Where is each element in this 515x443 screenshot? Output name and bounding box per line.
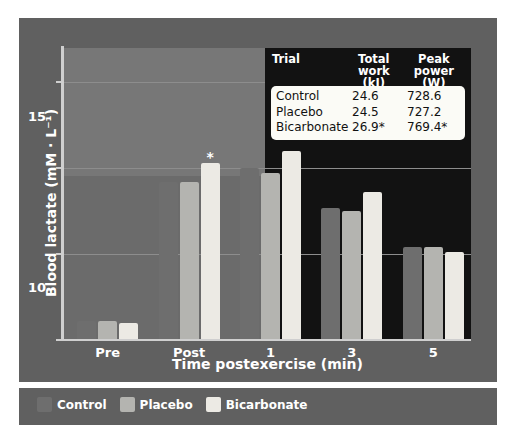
plot-background-light xyxy=(64,48,265,176)
x-axis-line xyxy=(64,339,471,341)
x-axis-title: Time postexercise (min) xyxy=(64,356,471,372)
bar-bicarbonate-3 xyxy=(363,192,382,340)
legend-swatch-icon xyxy=(37,397,52,412)
gridline xyxy=(64,168,471,169)
cell-total-work: 24.6 xyxy=(352,89,407,105)
cell-peak-power: 769.4* xyxy=(407,120,462,136)
bar-control-5 xyxy=(403,247,422,340)
legend-items: ControlPlaceboBicarbonate xyxy=(37,397,307,412)
legend-label: Placebo xyxy=(140,398,193,412)
cell-peak-power: 728.6 xyxy=(407,89,462,105)
cell-total-work: 26.9* xyxy=(352,120,407,136)
legend-label: Bicarbonate xyxy=(226,398,308,412)
legend-item-placebo[interactable]: Placebo xyxy=(120,397,193,412)
cell-peak-power: 727.2 xyxy=(407,105,462,121)
inset-header-trial: Trial xyxy=(272,53,344,89)
inset-header-peak-power: Peak power (W) xyxy=(404,53,464,89)
bar-placebo-5 xyxy=(424,247,443,340)
inset-header-total-work-label: Total work xyxy=(358,52,390,78)
bar-control-pre xyxy=(77,321,96,340)
legend-panel: ControlPlaceboBicarbonate xyxy=(19,388,497,425)
legend-label: Control xyxy=(57,398,107,412)
table-row: Bicarbonate26.9*769.4* xyxy=(271,120,465,136)
bar-bicarbonate-pre xyxy=(119,323,138,340)
chart-panel: Blood lactate (mM · L⁻¹) 051015 ** PrePo… xyxy=(19,18,497,382)
inset-header-trial-label: Trial xyxy=(272,52,300,66)
bar-control-3 xyxy=(321,208,340,340)
bar-bicarbonate-5 xyxy=(445,252,464,340)
y-axis-line xyxy=(61,46,64,341)
y-tick-label: 15 xyxy=(28,108,46,123)
bar-placebo-1 xyxy=(261,173,280,340)
cell-trial: Bicarbonate xyxy=(276,120,352,136)
inset-summary-table: Trial Total work (kJ) Peak power (W) Con… xyxy=(265,48,471,150)
bar-placebo-3 xyxy=(342,211,361,340)
cell-trial: Placebo xyxy=(276,105,352,121)
table-row: Control24.6728.6 xyxy=(271,89,465,105)
bar-placebo-pre xyxy=(98,321,117,340)
legend-swatch-icon xyxy=(206,397,221,412)
bar-control-1 xyxy=(240,168,259,340)
inset-table-body: Control24.6728.6Placebo24.5727.2Bicarbon… xyxy=(271,86,465,140)
table-row: Placebo24.5727.2 xyxy=(271,105,465,121)
y-axis-title: Blood lactate (mM · L⁻¹) xyxy=(43,98,59,308)
figure-root: Blood lactate (mM · L⁻¹) 051015 ** PrePo… xyxy=(0,0,515,443)
legend-item-control[interactable]: Control xyxy=(37,397,107,412)
legend-item-bicarbonate[interactable]: Bicarbonate xyxy=(206,397,308,412)
bar-control-post xyxy=(159,182,178,340)
legend-swatch-icon xyxy=(120,397,135,412)
inset-table-header: Trial Total work (kJ) Peak power (W) xyxy=(265,48,471,91)
cell-trial: Control xyxy=(276,89,352,105)
inset-header-total-work: Total work (kJ) xyxy=(344,53,404,89)
inset-header-peak-power-label: Peak power xyxy=(414,52,454,78)
y-tick-label: 10 xyxy=(28,280,46,295)
bar-bicarbonate-1: * xyxy=(282,151,301,340)
bar-placebo-post xyxy=(180,182,199,340)
significance-asterisk: * xyxy=(206,153,213,161)
cell-total-work: 24.5 xyxy=(352,105,407,121)
bar-bicarbonate-post: * xyxy=(201,163,220,340)
